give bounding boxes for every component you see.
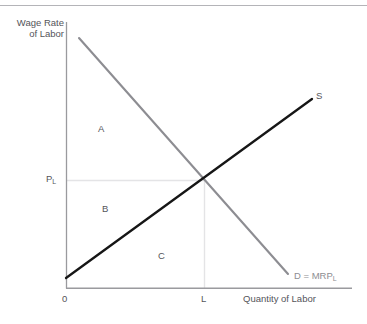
equilibrium-price-tick-label: PL	[46, 173, 56, 185]
equilibrium-quantity-tick-label: L	[201, 293, 206, 304]
region-label-a: A	[98, 123, 104, 134]
region-label-b: B	[102, 203, 108, 214]
economics-labor-market-chart: Wage Rate of Labor Quantity of Labor PL …	[0, 0, 367, 324]
y-axis-title-line1: Wage Rate	[17, 17, 64, 28]
y-axis-title-line2: of Labor	[29, 28, 64, 39]
region-label-c: C	[158, 250, 165, 261]
demand-label-subscript: L	[333, 275, 337, 282]
x-axis-title: Quantity of Labor	[243, 293, 316, 304]
demand-curve-label: D = MRPL	[294, 270, 337, 282]
y-axis-title: Wage Rate of Labor	[4, 17, 64, 39]
supply-curve-label: S	[316, 90, 322, 101]
demand-label-text: D = MRP	[294, 270, 333, 281]
origin-tick-label: 0	[62, 293, 67, 304]
price-label-subscript: L	[52, 178, 56, 185]
demand-curve	[79, 38, 288, 274]
